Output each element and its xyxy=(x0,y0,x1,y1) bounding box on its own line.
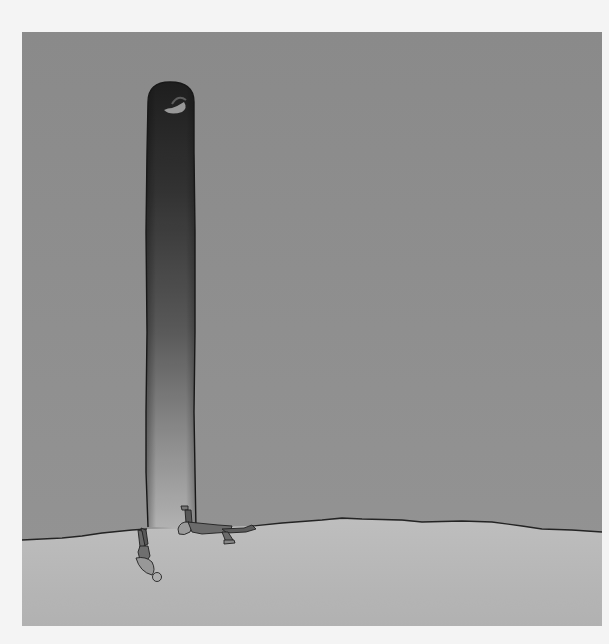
grain-overlay xyxy=(22,32,602,626)
artwork-frame xyxy=(22,32,602,626)
artwork-canvas xyxy=(22,32,602,626)
